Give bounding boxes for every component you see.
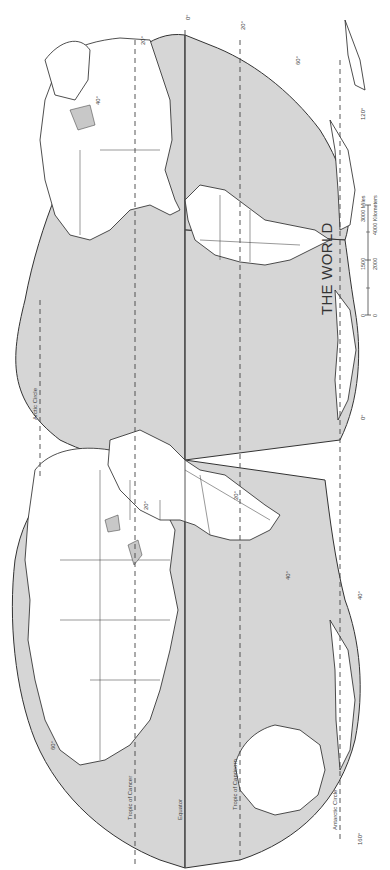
equator-label: Equator (177, 799, 183, 820)
lat-label-60n: 60° (50, 740, 56, 750)
antarctica-4 (345, 20, 365, 90)
lon-label-120: 120° (360, 107, 366, 120)
lat-label-60s: 60° (295, 55, 301, 65)
world-map: Equator Tropic of Cancer Tropic of Capri… (0, 0, 390, 870)
map-title: THE WORLD (318, 222, 335, 315)
scale-km-end: 4000 Kilometers (372, 195, 378, 235)
lon-label-40: 40° (357, 590, 363, 600)
scale-km-zero: 0 (372, 314, 378, 317)
lat-label-20n-b: 20° (143, 500, 149, 510)
lon-label-0: 0° (360, 414, 366, 420)
scale-miles-end: 3000 Miles (360, 195, 366, 222)
lat-label-20s: 20° (240, 20, 246, 30)
lat-label-20s-b: 20° (233, 490, 239, 500)
lon-label-160: 160° (357, 832, 363, 845)
lat-label-0: 0° (185, 14, 191, 20)
scale-km-mid: 2000 (372, 258, 378, 270)
lat-label-40n: 40° (95, 95, 101, 105)
tropic-of-cancer-label: Tropic of Cancer (127, 776, 133, 820)
arctic-circle-label: Arctic Circle (32, 387, 38, 420)
scale-miles-mid: 1500 (360, 258, 366, 270)
scale-miles-zero: 0 (360, 314, 366, 317)
scale-bar: 0 1500 3000 Miles 0 2000 4000 Kilometers (360, 195, 378, 317)
lat-label-40s: 40° (285, 570, 291, 580)
antarctic-circle-label: Antarctic Circle (332, 789, 338, 830)
lat-label-20n: 20° (140, 35, 146, 45)
tropic-of-capricorn-label: Tropic of Capricorn (232, 759, 238, 810)
